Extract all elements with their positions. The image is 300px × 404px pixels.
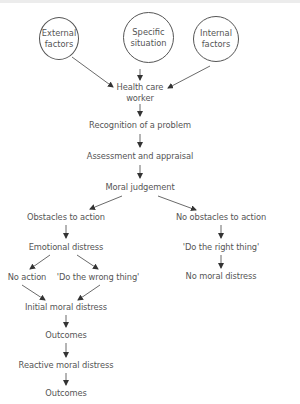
arrow-internal-to-worker [168,66,210,88]
circle-internal-factors: Internal factors [193,16,239,62]
internal-factors-line1: Internal [200,28,232,39]
node-emotional-distress: Emotional distress [29,242,104,253]
node-no-action: No action [8,272,47,283]
external-factors-line1: External [42,28,76,39]
node-recognition-of-problem: Recognition of a problem [89,120,191,131]
node-reactive-moral-distress: Reactive moral distress [19,360,114,371]
arrow-no-action-to-initial [22,285,45,300]
node-no-moral-distress: No moral distress [186,271,257,282]
circle-specific-situation: Specific situation [123,12,174,63]
node-health-care-worker: Health care worker [117,82,164,104]
node-assessment-and-appraisal: Assessment and appraisal [87,151,193,162]
health-care-worker-line2: worker [117,93,164,104]
node-moral-judgement: Moral judgement [105,182,174,193]
circle-external-factors: External factors [39,17,79,60]
arrow-judgement-to-obstacles [90,196,122,209]
health-care-worker-line1: Health care [117,82,164,93]
arrow-external-to-worker [72,57,113,87]
node-obstacles-to-action: Obstacles to action [27,212,105,223]
arrow-emotional-to-wrong-thing [77,255,98,269]
node-outcomes-1: Outcomes [45,330,86,341]
specific-situation-line2: situation [130,38,166,49]
specific-situation-line1: Specific [130,27,166,38]
arrow-emotional-to-no-action [30,255,50,269]
node-no-obstacles-to-action: No obstacles to action [176,212,266,223]
external-factors-line2: factors [42,39,76,50]
node-do-the-wrong-thing: 'Do the wrong thing' [57,272,140,283]
internal-factors-line2: factors [200,39,232,50]
node-do-the-right-thing: 'Do the right thing' [183,242,259,253]
arrow-judgement-to-no-obstacles [158,196,196,210]
node-initial-moral-distress: Initial moral distress [25,302,107,313]
arrow-wrong-thing-to-initial [78,285,100,300]
node-outcomes-2: Outcomes [45,388,86,399]
